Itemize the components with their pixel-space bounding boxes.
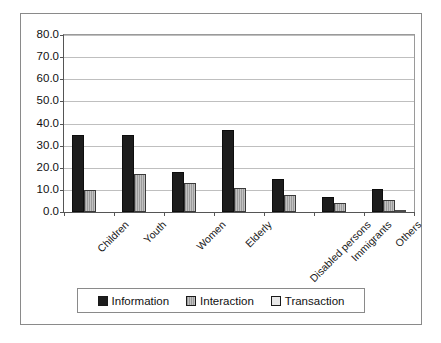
legend-item-interaction: Interaction xyxy=(186,295,254,307)
y-axis-tick-label: 70.0 xyxy=(37,51,59,63)
y-axis-tick-label: 80.0 xyxy=(37,29,59,41)
plot-area: 80.070.060.050.040.030.020.010.00.0 xyxy=(63,34,415,213)
bar-information-children xyxy=(72,135,84,212)
y-axis-tick-label: 10.0 xyxy=(37,184,59,196)
legend-label-transaction: Transaction xyxy=(285,295,345,307)
bar-information-women xyxy=(172,172,184,212)
y-axis-tick-label: 20.0 xyxy=(37,162,59,174)
bar-group xyxy=(122,35,156,212)
y-axis-tick-label: 30.0 xyxy=(37,140,59,152)
legend-swatch-transaction-icon xyxy=(271,296,281,306)
bar-information-others xyxy=(372,189,383,212)
y-axis-tick-label: 60.0 xyxy=(37,74,59,86)
bar-interaction-youth xyxy=(134,174,146,212)
bar-interaction-disabled-persons xyxy=(284,195,296,212)
x-axis-label-elderly: Elderly xyxy=(243,219,273,249)
y-axis-tick-label: 50.0 xyxy=(37,96,59,108)
x-axis-label-youth: Youth xyxy=(142,219,168,245)
legend-swatch-interaction-icon xyxy=(186,296,196,306)
bar-group xyxy=(372,35,406,212)
x-axis-label-children: Children xyxy=(95,219,130,254)
chart-frame: 80.070.060.050.040.030.020.010.00.0 Chil… xyxy=(20,13,422,325)
bar-information-elderly xyxy=(222,130,234,212)
bar-interaction-children xyxy=(84,190,96,212)
legend-label-interaction: Interaction xyxy=(200,295,254,307)
y-axis-tick-label: 40.0 xyxy=(37,118,59,130)
bars-layer xyxy=(64,35,414,212)
bar-group xyxy=(322,35,356,212)
bar-interaction-others xyxy=(383,200,394,212)
chart-legend: Information Interaction Transaction xyxy=(77,288,365,313)
bar-information-youth xyxy=(122,135,134,212)
legend-label-information: Information xyxy=(112,295,170,307)
legend-swatch-information-icon xyxy=(98,296,108,306)
legend-item-information: Information xyxy=(98,295,170,307)
x-axis-label-others: Others xyxy=(393,219,423,249)
bar-group xyxy=(72,35,106,212)
chart-screenshot: 80.070.060.050.040.030.020.010.00.0 Chil… xyxy=(0,0,441,343)
bar-interaction-elderly xyxy=(234,188,246,212)
bar-transaction-others xyxy=(395,210,406,212)
x-axis-tick-mark xyxy=(414,212,415,216)
bar-group xyxy=(222,35,256,212)
bar-interaction-immigrants xyxy=(334,203,346,212)
bar-group xyxy=(272,35,306,212)
legend-item-transaction: Transaction xyxy=(271,295,345,307)
x-axis-labels: ChildrenYouthWomenElderlyDisabled person… xyxy=(63,213,413,293)
bar-information-immigrants xyxy=(322,197,334,212)
bar-interaction-women xyxy=(184,183,196,212)
x-axis-label-women: Women xyxy=(195,219,228,252)
y-axis-tick-label: 0.0 xyxy=(43,206,59,218)
bar-information-disabled-persons xyxy=(272,179,284,212)
bar-group xyxy=(172,35,206,212)
